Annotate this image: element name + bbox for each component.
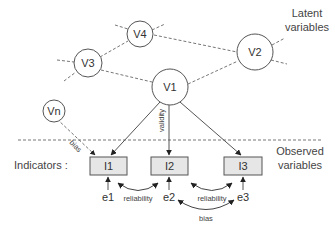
latent-node-v4: V4	[127, 21, 153, 47]
indicator-i2: I2	[151, 157, 188, 175]
e1-label: e1	[102, 191, 114, 203]
indicators-label: Indicators :	[14, 159, 68, 171]
latent-node-v2: V2	[237, 34, 273, 70]
i3-label: I3	[238, 160, 247, 172]
bias-errors-label: bias	[199, 214, 213, 223]
indicator-i3: I3	[224, 157, 262, 175]
reliability-label-1: reliability	[123, 194, 152, 203]
e2-label: e2	[163, 191, 175, 203]
reliability-i1-i2-arc	[118, 183, 158, 191]
vn-label: Vn	[47, 105, 60, 117]
reliability-i2-i3-arc	[191, 183, 232, 191]
i2-label: I2	[165, 160, 174, 172]
v4-label: V4	[133, 28, 146, 40]
v1-label: V1	[163, 81, 176, 93]
validity-label: validity	[157, 109, 166, 132]
v2-label: V2	[248, 46, 261, 58]
observed-label-line1: Observed	[276, 145, 324, 157]
measurement-model-diagram: V1 V2 V3 V4 Vn validity bias Latent vari…	[0, 0, 335, 230]
reliability-label-2: reliability	[197, 194, 226, 203]
indicator-i1: I1	[90, 157, 127, 175]
latent-label-line1: Latent	[292, 7, 323, 19]
latent-label-line2: variables	[285, 21, 330, 33]
latent-node-vn: Vn	[43, 100, 65, 122]
observed-label-line2: variables	[278, 159, 323, 171]
v3-label: V3	[81, 57, 94, 69]
i1-label: I1	[104, 160, 113, 172]
v1-to-i3-edge	[180, 102, 241, 155]
vn-bias-label: bias	[68, 138, 84, 154]
v1-to-i1-edge	[111, 102, 160, 155]
e3-label: e3	[237, 191, 249, 203]
latent-node-v1: V1	[152, 69, 188, 105]
latent-node-v3: V3	[74, 49, 102, 77]
